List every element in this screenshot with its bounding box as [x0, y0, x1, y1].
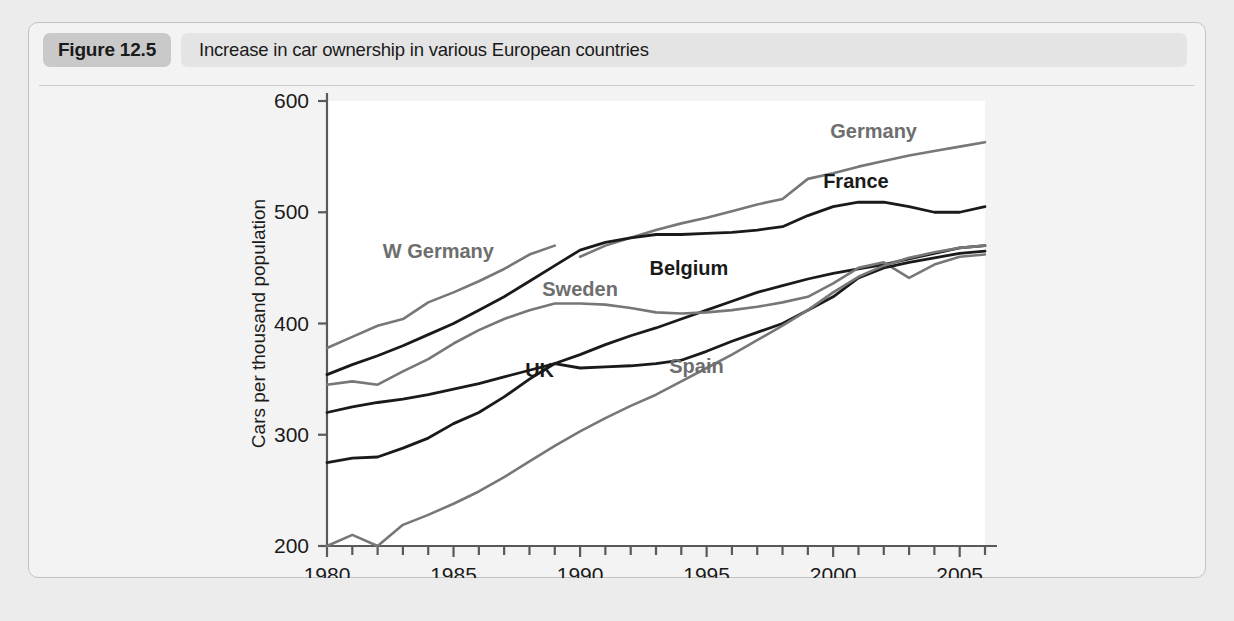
- y-axis-tick-label: 200: [274, 534, 309, 557]
- series-label-spain: Spain: [669, 355, 723, 377]
- series-label-france: France: [823, 170, 889, 192]
- series-label-w-germany: W Germany: [383, 240, 495, 262]
- figure-title: Increase in car ownership in various Eur…: [181, 33, 1187, 67]
- x-axis-tick-label: 1980: [304, 563, 351, 578]
- series-label-uk: UK: [525, 359, 554, 381]
- x-axis-tick-label: 1995: [683, 563, 730, 578]
- figure-number-badge: Figure 12.5: [43, 33, 171, 67]
- x-axis-tick-label: 1985: [430, 563, 477, 578]
- series-label-belgium: Belgium: [649, 257, 728, 279]
- series-label-sweden: Sweden: [542, 278, 618, 300]
- chart-area: 200300400500600198019851990199520002005C…: [29, 86, 1205, 577]
- plot-background: [327, 101, 985, 546]
- x-axis-tick-label: 2000: [810, 563, 857, 578]
- x-axis-tick-label: 1990: [557, 563, 604, 578]
- figure-card: Figure 12.5 Increase in car ownership in…: [28, 22, 1206, 578]
- page-root: Figure 12.5 Increase in car ownership in…: [0, 0, 1234, 621]
- y-axis-tick-label: 300: [274, 423, 309, 446]
- y-axis-tick-label: 500: [274, 200, 309, 223]
- y-axis-title: Cars per thousand population: [248, 199, 269, 448]
- line-chart: 200300400500600198019851990199520002005C…: [29, 86, 1205, 578]
- figure-header: Figure 12.5 Increase in car ownership in…: [29, 23, 1205, 77]
- series-label-germany: Germany: [830, 120, 918, 142]
- y-axis-tick-label: 400: [274, 312, 309, 335]
- y-axis-tick-label: 600: [274, 89, 309, 112]
- x-axis-tick-label: 2005: [936, 563, 983, 578]
